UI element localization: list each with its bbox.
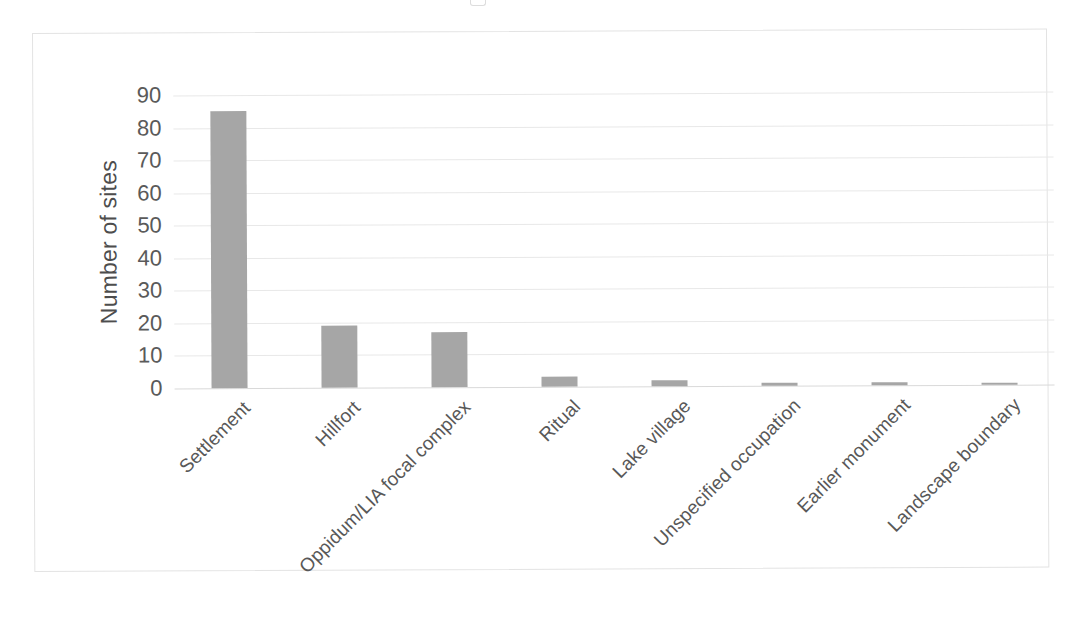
gridline — [173, 92, 1053, 97]
x-tick-labels-group: SettlementHillfortOppidum/LIA focal comp… — [175, 394, 1056, 588]
x-tick-label: Earlier monument — [793, 394, 915, 517]
y-tick-label: 20 — [138, 310, 163, 336]
gridlines-group — [173, 92, 1053, 96]
gridline — [174, 319, 1054, 324]
y-tick-label: 60 — [137, 180, 162, 206]
y-axis-title: Number of sites — [93, 96, 124, 389]
bar — [542, 377, 578, 387]
y-axis-title-text: Number of sites — [95, 160, 123, 324]
bar — [762, 382, 798, 385]
y-tick-label: 50 — [137, 213, 162, 239]
y-tick-label: 70 — [137, 148, 162, 174]
bar — [982, 383, 1018, 385]
x-tick-label: Ritual — [535, 396, 585, 446]
x-tick-label: Hillfort — [311, 397, 365, 451]
gridline — [173, 124, 1053, 129]
gridline — [174, 157, 1054, 162]
y-tick-label: 80 — [137, 115, 162, 141]
y-tick-label: 90 — [137, 82, 162, 108]
x-tick-label: Settlement — [175, 397, 255, 478]
bar — [321, 326, 357, 388]
gridline — [174, 352, 1054, 357]
bar — [210, 111, 247, 388]
gridline — [174, 222, 1054, 227]
y-tick-label: 0 — [150, 375, 162, 401]
y-tick-label: 30 — [138, 278, 163, 304]
chart-frame: Number of sites 0102030405060708090 Sett… — [32, 29, 1049, 572]
gridline — [174, 189, 1054, 194]
gridline — [175, 385, 1055, 390]
plot-area: 0102030405060708090 — [173, 92, 1054, 389]
gridline — [174, 287, 1054, 292]
x-tick-label: Lake village — [608, 395, 695, 483]
y-tick-label: 10 — [138, 343, 163, 369]
scan-artifact-mark — [470, 0, 486, 6]
bar — [652, 380, 688, 387]
bar — [431, 332, 467, 388]
gridline — [174, 254, 1054, 259]
bar — [872, 382, 908, 385]
y-tick-label: 40 — [137, 245, 162, 271]
